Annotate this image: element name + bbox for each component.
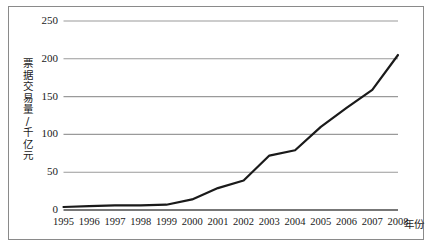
line-chart-plot [0,0,435,251]
data-line [64,55,399,207]
data-series-group [64,55,399,207]
gridline-group [64,21,399,210]
figure-container: 票据交易量/千亿元 050100150200250199519961997199… [0,0,435,251]
